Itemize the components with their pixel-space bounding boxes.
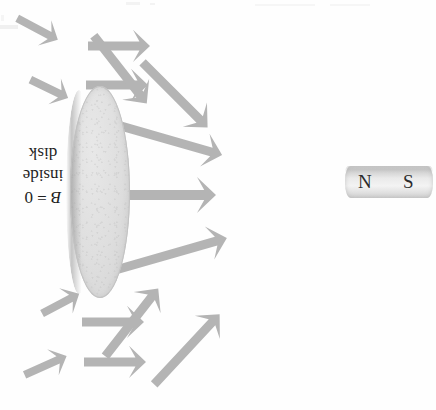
bar-magnet: N S: [345, 166, 433, 198]
scan-artifact: [150, 3, 155, 5]
caption-line-2: inside: [6, 164, 80, 186]
magnet-south-pole-label: S: [403, 170, 414, 194]
magnet-north-pole-label: N: [358, 170, 372, 194]
scan-artifact: [330, 4, 370, 6]
field-line-arrow: [76, 302, 144, 322]
caption-line-1: B = 0: [6, 186, 80, 208]
field-line-arrow: [12, 340, 67, 378]
caption-b-equals-zero-inside-disk: B = 0 inside disk: [6, 142, 80, 208]
scan-artifact: [1, 15, 4, 21]
caption-line-3: disk: [6, 142, 80, 164]
scan-artifact: [255, 4, 315, 6]
figure-canvas: N S B = 0 inside disk: [0, 0, 436, 410]
scan-artifact: [126, 2, 140, 5]
caption-symbol-b: B: [51, 188, 61, 207]
caption-line-1-rest: = 0: [25, 188, 52, 207]
field-line-arrow: [78, 342, 146, 362]
field-line-arrow: [12, 0, 66, 40]
